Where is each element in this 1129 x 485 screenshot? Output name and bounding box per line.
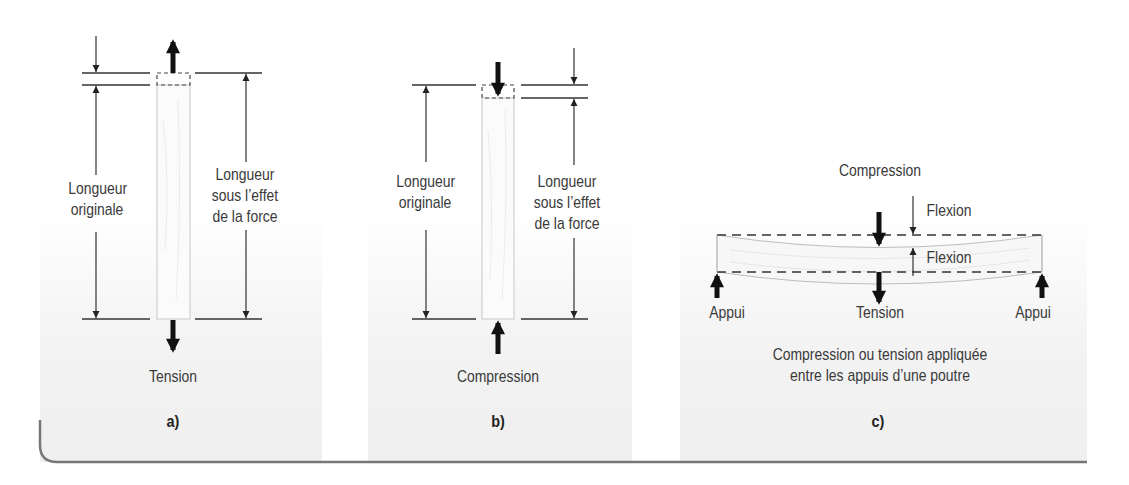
original-length-label: Longueur originale [68,178,125,220]
compression-label: Compression [453,366,543,387]
tension-center-label: Tension [851,302,908,323]
compression-top-label: Compression [831,160,929,181]
elongation-dashed [157,73,190,85]
original-length-label: Longueur originale [396,171,453,213]
flexion-top-label: Flexion [920,200,977,221]
wood-bar [482,98,514,319]
flexion-bottom-label: Flexion [920,247,977,268]
deformed-length-label: Longueur sous l’effet de la force [526,171,608,234]
wood-bar [157,85,190,319]
frame-border [40,420,1087,462]
support-right-label: Appui [1013,302,1054,323]
caption-c: c) [861,412,895,432]
tension-label: Tension [140,366,206,387]
beam-description: Compression ou tension appliquée entre l… [765,344,995,386]
deformed-length-label: Longueur sous l’effet de la force [204,164,286,227]
caption-a: a) [156,412,190,432]
caption-b: b) [481,412,515,432]
support-left-label: Appui [707,302,748,323]
panel-c-drawing [717,196,1042,302]
